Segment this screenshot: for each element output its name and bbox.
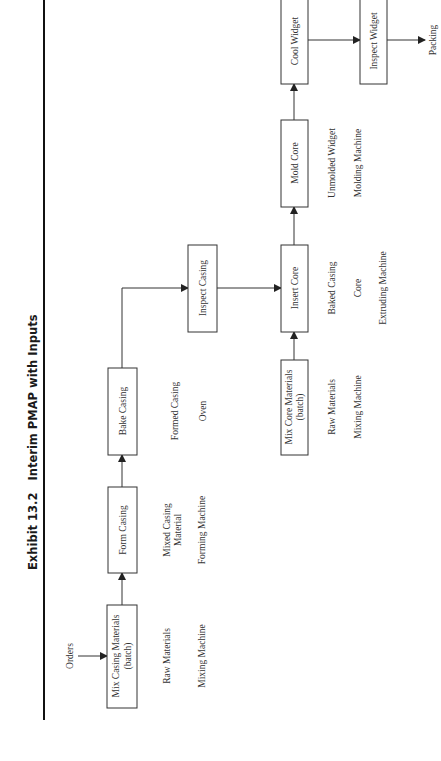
node-label: Insert Core: [290, 267, 300, 309]
node-label: Inspect Casing: [198, 260, 208, 316]
node-mix-core-materials: Mix Core Materials (batch): [281, 360, 308, 455]
node-label: (batch): [123, 643, 134, 670]
exhibit-title: Exhibit 13.2 Interim PMAP with Inputs: [26, 314, 40, 570]
input-label: Mixed Casing: [162, 503, 172, 557]
node-form-casing: Form Casing: [108, 487, 137, 573]
node-cool-widget: Cool Widget: [281, 0, 308, 84]
pmap-diagram: Exhibit 13.2 Interim PMAP with Inputs Or…: [0, 0, 441, 761]
node-label: Form Casing: [118, 505, 128, 555]
input-label: Oven: [198, 400, 208, 421]
node-inspect-casing: Inspect Casing: [188, 245, 217, 332]
node-label: (batch): [295, 394, 306, 421]
node-label: Mold Core: [290, 142, 300, 183]
node-mold-core: Mold Core: [281, 120, 308, 207]
node-bake-casing: Bake Casing: [108, 368, 137, 455]
input-label: Molding Machine: [353, 129, 363, 197]
input-label: Baked Casing: [327, 261, 337, 314]
orders-label: Orders: [65, 643, 75, 669]
input-label: Raw Materials: [327, 379, 337, 435]
input-label: Unmolded Widget: [327, 128, 337, 198]
node-mix-casing-materials: Mix Casing Materials (batch): [107, 605, 137, 708]
node-label: Bake Casing: [118, 387, 128, 436]
input-label: Mixing Machine: [353, 375, 363, 439]
node-label: Mix Casing Materials: [111, 614, 121, 697]
edge-bake-inspectcasing: [122, 288, 188, 368]
node-label: Cool Widget: [290, 17, 300, 66]
input-label: Forming Machine: [197, 496, 207, 564]
input-label: Extruding Machine: [378, 251, 388, 325]
input-label: Material: [173, 514, 183, 547]
input-label: Raw Materials: [162, 628, 172, 684]
packing-label: Packing: [428, 24, 438, 55]
input-label: Core: [353, 279, 363, 297]
node-inspect-widget: Inspect Widget: [360, 0, 387, 84]
node-label: Mix Core Materials: [284, 369, 294, 444]
input-label: Mixing Machine: [197, 624, 207, 688]
node-label: Inspect Widget: [369, 12, 379, 70]
node-insert-core: Insert Core: [281, 245, 308, 332]
input-label: Formed Casing: [170, 382, 180, 441]
